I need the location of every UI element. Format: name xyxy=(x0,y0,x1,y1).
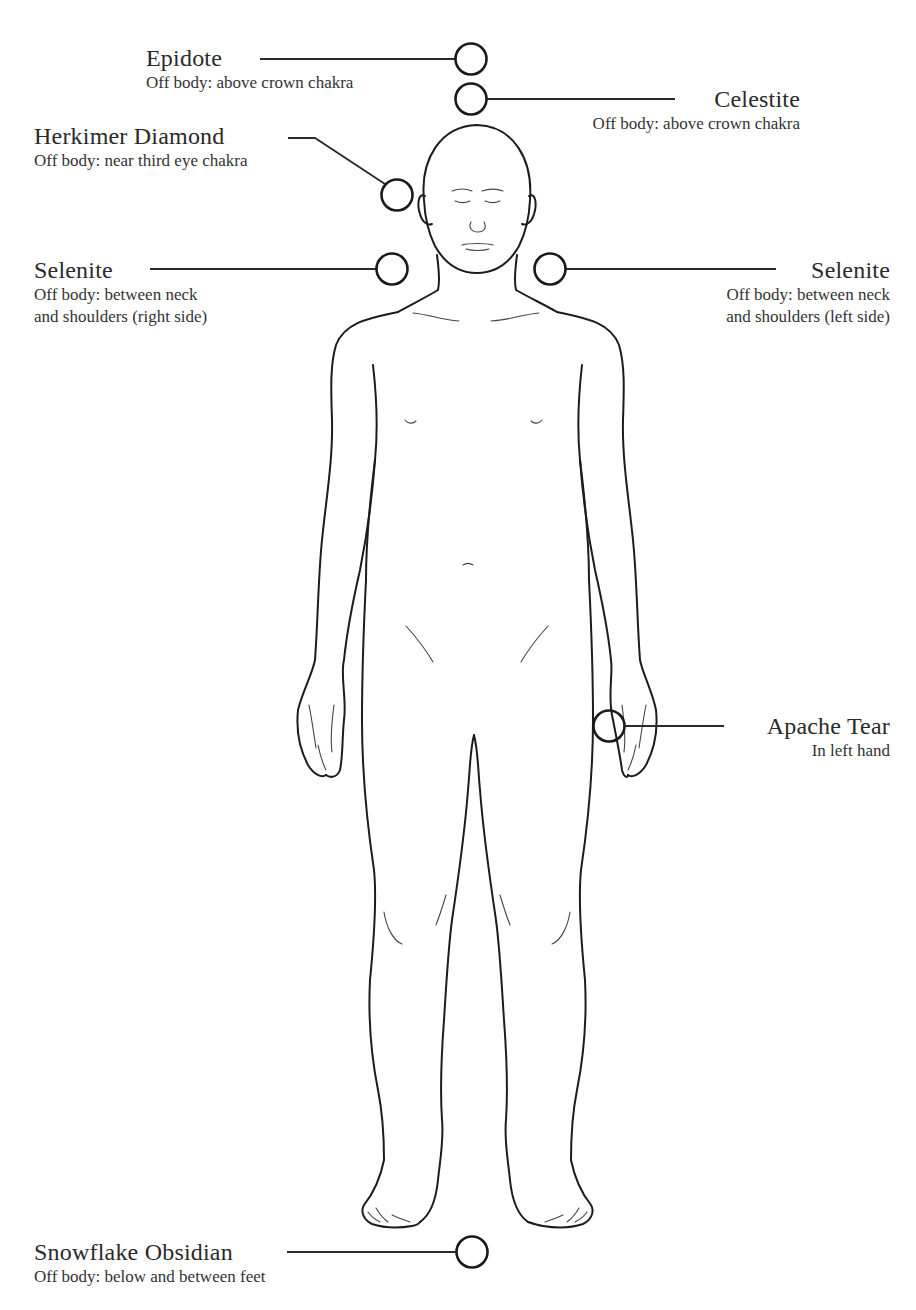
placement-description: Off body: above crown chakra xyxy=(593,113,800,135)
crystal-name: Selenite xyxy=(34,256,207,284)
crystal-name: Herkimer Diamond xyxy=(34,122,248,150)
toes-left xyxy=(545,1208,587,1222)
label-snowflake-obsidian: Snowflake Obsidian Off body: below and b… xyxy=(34,1238,265,1288)
nose xyxy=(470,222,485,232)
torso-left xyxy=(571,460,593,1160)
clavicle-left xyxy=(491,313,539,321)
label-selenite-right-side: Selenite Off body: between neck and shou… xyxy=(34,256,207,328)
label-apache-tear: Apache Tear In left hand xyxy=(767,712,890,762)
placement-description: In left hand xyxy=(767,740,890,762)
fingers-right xyxy=(309,705,334,770)
navel xyxy=(463,564,473,566)
eye-right xyxy=(455,201,470,203)
placement-description-line2: and shoulders (left side) xyxy=(726,306,890,328)
nipple-right xyxy=(405,420,416,423)
inner-legs xyxy=(420,735,528,1222)
placement-description: Off body: near third eye chakra xyxy=(34,150,248,172)
groin-right xyxy=(406,626,433,662)
marker-apache-tear xyxy=(594,711,625,742)
placement-description-line1: Off body: between neck xyxy=(726,284,890,306)
crystal-name: Apache Tear xyxy=(767,712,890,740)
leader-herkimer xyxy=(288,138,385,184)
marker-selenite-left xyxy=(535,254,566,285)
marker-celestite xyxy=(456,84,487,115)
label-epidote: Epidote Off body: above crown chakra xyxy=(146,44,353,94)
placement-description-line2: and shoulders (right side) xyxy=(34,306,207,328)
arm-right-inner xyxy=(326,365,377,777)
fingers-left xyxy=(622,705,646,770)
brow-left xyxy=(482,189,503,191)
brow-right xyxy=(452,189,472,191)
knee-right xyxy=(384,895,446,944)
crystal-name: Epidote xyxy=(146,44,353,72)
label-herkimer-diamond: Herkimer Diamond Off body: near third ey… xyxy=(34,122,248,172)
mouth xyxy=(462,244,493,251)
placement-description: Off body: below and between feet xyxy=(34,1266,265,1288)
label-celestite: Celestite Off body: above crown chakra xyxy=(593,85,800,135)
clavicle-right xyxy=(413,313,459,321)
marker-epidote xyxy=(456,44,487,75)
marker-herkimer-diamond xyxy=(382,180,413,211)
crystal-name: Selenite xyxy=(726,256,890,284)
torso-right xyxy=(362,460,384,1160)
crystal-placement-diagram: Epidote Off body: above crown chakra Cel… xyxy=(0,0,916,1310)
label-selenite-left-side: Selenite Off body: between neck and shou… xyxy=(726,256,890,328)
marker-snowflake-obsidian xyxy=(457,1237,488,1268)
crystal-name: Snowflake Obsidian xyxy=(34,1238,265,1266)
marker-selenite-right xyxy=(377,254,408,285)
foot-right xyxy=(362,1160,420,1227)
groin-left xyxy=(521,626,548,662)
crystal-name: Celestite xyxy=(593,85,800,113)
body-figure xyxy=(0,0,916,1310)
nipple-left xyxy=(531,420,542,423)
placement-description-line1: Off body: between neck xyxy=(34,284,207,306)
eye-left xyxy=(485,201,500,203)
arm-left-outer xyxy=(557,312,657,776)
knee-left xyxy=(500,895,570,944)
toes-right xyxy=(368,1208,410,1222)
arm-right-outer xyxy=(297,312,398,776)
placement-description: Off body: above crown chakra xyxy=(146,72,353,94)
